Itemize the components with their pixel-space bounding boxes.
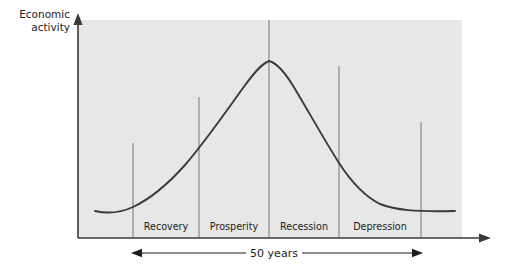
duration-arrow-left-head-icon: [131, 249, 142, 257]
y-axis-label: Economic activity: [4, 8, 70, 34]
business-cycle-diagram: Economic activity Recovery Prosperity Re…: [0, 0, 506, 268]
x-axis-arrowhead-icon: [479, 233, 491, 242]
phase-label-recession: Recession: [280, 221, 328, 232]
phase-label-depression: Depression: [353, 221, 407, 232]
duration-label: 50 years: [246, 247, 302, 260]
y-axis-label-line-2: activity: [4, 21, 70, 34]
duration-arrow-right-head-icon: [412, 249, 423, 257]
phase-label-recovery: Recovery: [144, 221, 188, 232]
y-axis-arrowhead-icon: [73, 13, 82, 25]
y-axis-label-line-1: Economic: [4, 8, 70, 21]
phase-label-prosperity: Prosperity: [210, 221, 258, 232]
